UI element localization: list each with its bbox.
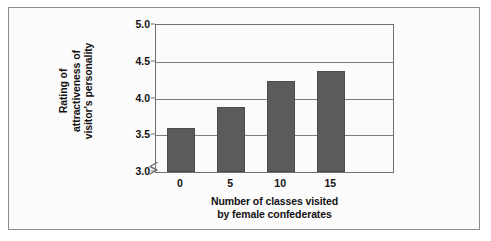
x-tick-label: 0 xyxy=(177,177,183,189)
y-tick-mark xyxy=(151,134,155,135)
x-axis-title: Number of classes visited by female conf… xyxy=(155,195,394,220)
bar xyxy=(317,71,345,172)
y-tick-label: 4.5 xyxy=(135,55,150,67)
x-tick-label: 15 xyxy=(324,177,336,189)
x-axis-title-line-1: Number of classes visited xyxy=(155,195,394,208)
y-axis-title: Rating of attractiveness of visitor's pe… xyxy=(1,16,151,166)
bar xyxy=(217,107,245,172)
y-tick-label: 5.0 xyxy=(135,18,150,30)
y-axis-title-line-2: attractiveness of xyxy=(70,43,83,140)
plot-area xyxy=(155,24,394,173)
y-tick-mark xyxy=(151,97,155,98)
y-axis-title-line-3: visitor's personality xyxy=(82,43,95,140)
bar xyxy=(167,128,195,172)
axis-break-icon xyxy=(148,159,161,176)
y-tick-mark xyxy=(151,24,155,25)
y-tick-label: 3.5 xyxy=(135,128,150,140)
bar xyxy=(267,81,295,172)
gridline xyxy=(156,62,393,63)
y-tick-mark xyxy=(151,60,155,61)
figure-frame: Rating of attractiveness of visitor's pe… xyxy=(8,7,480,230)
y-axis-title-line-1: Rating of xyxy=(57,43,70,140)
y-tick-label: 4.0 xyxy=(135,92,150,104)
x-tick-label: 10 xyxy=(274,177,286,189)
x-tick-label: 5 xyxy=(227,177,233,189)
plot-block: 3.03.54.04.55.0 051015 xyxy=(155,24,394,173)
x-axis-title-line-2: by female confederates xyxy=(155,208,394,221)
